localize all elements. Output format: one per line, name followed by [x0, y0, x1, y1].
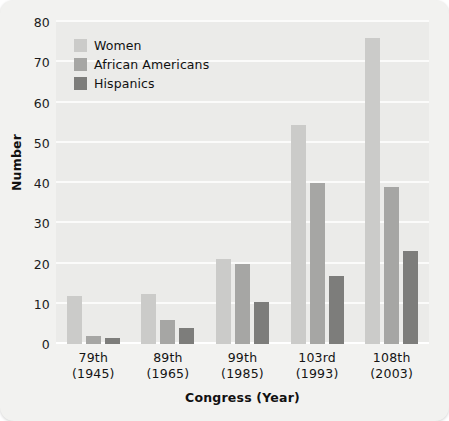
y-tick-label: 80	[4, 15, 50, 30]
legend-label: Hispanics	[94, 76, 155, 91]
x-tick-year: (2003)	[354, 366, 429, 382]
y-tick-label: 60	[4, 95, 50, 110]
legend-item[interactable]: African Americans	[74, 55, 209, 73]
y-tick-label: 50	[4, 135, 50, 150]
x-tick-year: (1965)	[131, 366, 206, 382]
x-tick-label: 108th(2003)	[354, 350, 429, 382]
x-tick-congress: 103rd	[280, 350, 355, 366]
bar[interactable]	[67, 296, 82, 344]
bar[interactable]	[141, 294, 156, 344]
bar[interactable]	[179, 328, 194, 344]
y-tick-label: 10	[4, 296, 50, 311]
x-tick-label: 103rd(1993)	[280, 350, 355, 382]
x-tick-year: (1993)	[280, 366, 355, 382]
bar[interactable]	[384, 187, 399, 344]
x-tick-label: 99th(1985)	[205, 350, 280, 382]
x-tick-year: (1945)	[56, 366, 131, 382]
bar[interactable]	[403, 251, 418, 344]
x-axis-tick-labels: 79th(1945)89th(1965)99th(1985)103rd(1993…	[56, 350, 429, 388]
x-tick-congress: 108th	[354, 350, 429, 366]
bar[interactable]	[160, 320, 175, 344]
x-tick-year: (1985)	[205, 366, 280, 382]
x-axis-title: Congress (Year)	[56, 390, 429, 405]
bar[interactable]	[291, 125, 306, 344]
y-axis-tick-labels: 01020304050607080	[0, 22, 50, 344]
x-tick-congress: 99th	[205, 350, 280, 366]
y-tick-label: 20	[4, 256, 50, 271]
x-tick-label: 89th(1965)	[131, 350, 206, 382]
y-tick-label: 40	[4, 176, 50, 191]
bar[interactable]	[310, 183, 325, 344]
bar-group	[280, 22, 355, 344]
bar[interactable]	[365, 38, 380, 344]
bar[interactable]	[86, 336, 101, 344]
chart-legend: WomenAfrican AmericansHispanics	[74, 36, 209, 93]
x-tick-label: 79th(1945)	[56, 350, 131, 382]
y-tick-label: 30	[4, 216, 50, 231]
legend-item[interactable]: Hispanics	[74, 74, 209, 92]
legend-label: Women	[94, 38, 142, 53]
x-tick-congress: 89th	[131, 350, 206, 366]
bar[interactable]	[235, 264, 250, 345]
chart-card: Number 01020304050607080 79th(1945)89th(…	[0, 0, 449, 421]
legend-swatch-icon	[74, 58, 87, 71]
legend-swatch-icon	[74, 39, 87, 52]
bar[interactable]	[105, 338, 120, 344]
legend-label: African Americans	[94, 57, 209, 72]
bar[interactable]	[329, 276, 344, 344]
y-tick-label: 0	[4, 337, 50, 352]
bar-group	[354, 22, 429, 344]
bar[interactable]	[254, 302, 269, 344]
bar-group	[205, 22, 280, 344]
legend-swatch-icon	[74, 77, 87, 90]
x-tick-congress: 79th	[56, 350, 131, 366]
y-tick-label: 70	[4, 55, 50, 70]
bar[interactable]	[216, 259, 231, 344]
legend-item[interactable]: Women	[74, 36, 209, 54]
